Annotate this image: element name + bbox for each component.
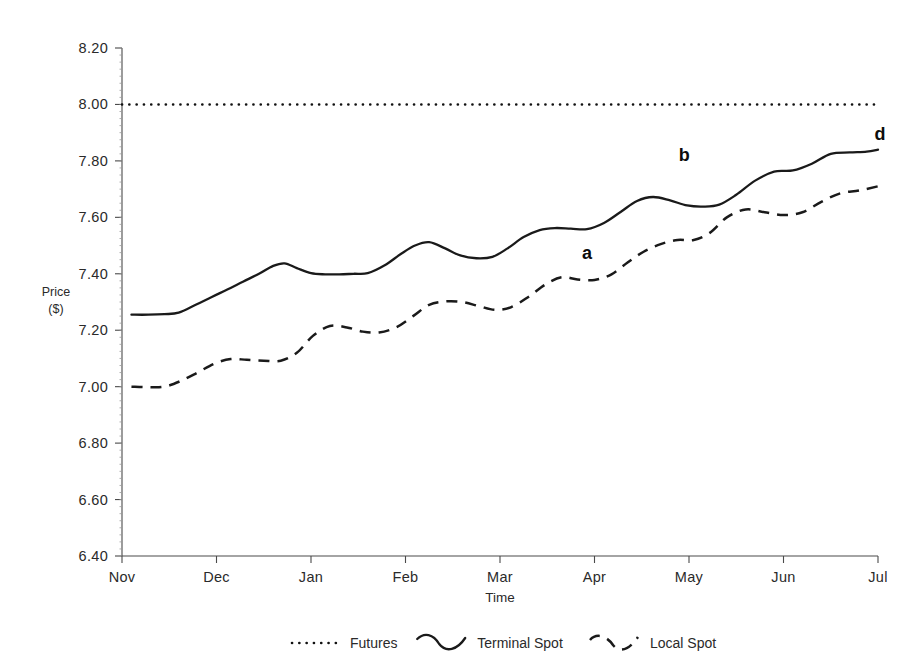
x-tick-label: Mar — [487, 569, 513, 585]
y-axis-title-line2: ($) — [48, 302, 63, 316]
legend-label-futures: Futures — [350, 635, 397, 651]
y-tick-label: 7.20 — [79, 322, 108, 338]
y-tick-label: 6.60 — [79, 492, 108, 508]
y-tick-label: 6.80 — [79, 435, 108, 451]
x-tick-label: Nov — [109, 569, 136, 585]
y-tick-label: 8.00 — [79, 96, 108, 112]
series-line-terminal-spot — [131, 150, 878, 315]
legend-item-local-spot[interactable]: Local Spot — [590, 635, 716, 651]
x-tick-label: Dec — [203, 569, 230, 585]
y-tick-label: 7.80 — [79, 153, 108, 169]
chart-figure: 8.208.007.807.607.407.207.006.806.606.40… — [0, 0, 924, 669]
x-axis-title: Time — [485, 590, 515, 605]
annotation-d: d — [874, 124, 885, 144]
chart-legend: FuturesTerminal SpotLocal Spot — [292, 635, 716, 651]
y-axis-title-line1: Price — [42, 285, 71, 299]
y-axis-group: 8.208.007.807.607.407.207.006.806.606.40 — [79, 40, 122, 564]
y-tick-label: 7.40 — [79, 266, 108, 282]
y-axis-tick-labels: 8.208.007.807.607.407.207.006.806.606.40 — [79, 40, 108, 564]
legend-label-local-spot: Local Spot — [650, 635, 716, 651]
price-time-line-chart: 8.208.007.807.607.407.207.006.806.606.40… — [0, 0, 924, 669]
series-line-local-spot — [131, 186, 878, 387]
x-tick-label: Apr — [583, 569, 606, 585]
y-tick-label: 6.40 — [79, 548, 108, 564]
legend-swatch-terminal-spot — [417, 635, 465, 649]
legend-label-terminal-spot: Terminal Spot — [477, 635, 563, 651]
plot-series-group — [122, 104, 878, 387]
y-tick-label: 8.20 — [79, 40, 108, 56]
annotation-a: a — [582, 243, 593, 263]
x-tick-label: Jun — [771, 569, 795, 585]
x-tick-label: Jan — [299, 569, 323, 585]
x-tick-label: May — [675, 569, 704, 585]
x-tick-label: Feb — [393, 569, 419, 585]
y-tick-label: 7.60 — [79, 209, 108, 225]
y-axis-title: Price ($) — [42, 285, 71, 316]
x-axis-group: NovDecJanFebMarAprMayJunJul — [109, 556, 888, 585]
legend-swatch-local-spot — [590, 636, 638, 650]
annotation-b: b — [679, 145, 690, 165]
x-axis-tick-labels: NovDecJanFebMarAprMayJunJul — [109, 569, 888, 585]
legend-item-futures[interactable]: Futures — [292, 635, 397, 651]
x-axis-tick-marks — [122, 556, 878, 563]
y-tick-label: 7.00 — [79, 379, 108, 395]
legend-item-terminal-spot[interactable]: Terminal Spot — [417, 635, 563, 651]
x-tick-label: Jul — [868, 569, 887, 585]
